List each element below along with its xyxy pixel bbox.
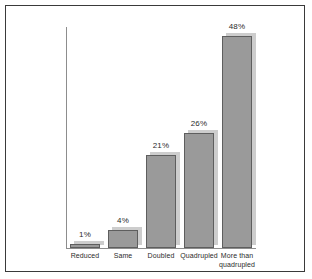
bar-more-than-quadrupled: 48% <box>222 27 252 248</box>
bar-same: 4% <box>108 27 138 248</box>
chart-screenshot: 1% 4% 21% 26% 48% <box>0 0 312 279</box>
x-label-line: quadrupled <box>213 261 261 270</box>
x-axis-labels: Reduced Same Doubled Quadrupled More tha… <box>66 252 256 274</box>
bar-series: 1% 4% 21% 26% 48% <box>66 27 256 248</box>
bar-quadrupled: 26% <box>184 27 214 248</box>
bar-value-label: 4% <box>108 216 138 225</box>
bar-value-label: 21% <box>146 141 176 150</box>
bar-value-label: 26% <box>184 119 214 128</box>
bar-reduced: 1% <box>70 27 100 248</box>
bar-body <box>184 133 214 248</box>
x-label-line: More than <box>213 252 261 261</box>
bar-body <box>108 230 138 248</box>
x-label-more-than-quadrupled: More thanquadrupled <box>213 252 261 269</box>
bar-doubled: 21% <box>146 27 176 248</box>
bar-body <box>146 155 176 248</box>
plot-area: 1% 4% 21% 26% 48% <box>0 0 312 279</box>
x-axis-line <box>66 248 256 249</box>
bar-value-label: 1% <box>70 230 100 239</box>
bar-body <box>222 36 252 248</box>
bar-value-label: 48% <box>222 22 252 31</box>
bar-body <box>70 244 100 248</box>
